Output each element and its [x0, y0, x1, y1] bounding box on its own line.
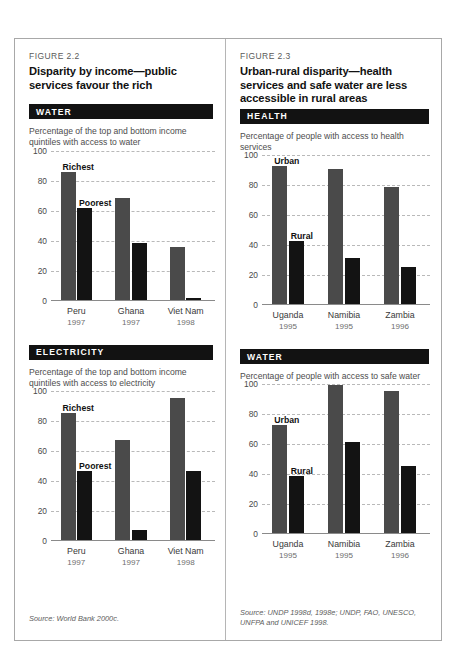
figure-source: Source: World Bank 2000c.	[29, 614, 119, 624]
series-label-poorest: Poorest	[79, 461, 111, 471]
figure-page: FIGURE 2.2 Disparity by income—public se…	[0, 0, 456, 655]
plot-area: 020406080100UrbanRural	[262, 384, 430, 534]
series-label-urban: Urban	[274, 415, 299, 425]
bar-uganda-rural	[289, 241, 304, 304]
bar-zambia-urban	[384, 187, 399, 304]
series-label-rural: Rural	[291, 466, 313, 476]
figures-frame: FIGURE 2.2 Disparity by income—public se…	[14, 38, 442, 641]
x-axis-category: Ghana1997	[118, 546, 144, 567]
series-label-richest: Richest	[63, 162, 94, 172]
y-axis-tick-label: 60	[249, 439, 258, 449]
series-label-urban: Urban	[274, 156, 299, 166]
series-label-richest: Richest	[63, 403, 94, 413]
category-year: 1995	[273, 322, 304, 331]
bar-viet-nam-poorest	[186, 471, 201, 540]
chart-income-electricity: 020406080100RichestPoorestPeru1997Ghana1…	[29, 391, 213, 572]
bar-peru-richest	[61, 413, 76, 541]
category-name: Ghana	[118, 546, 144, 556]
bar-ghana-richest	[115, 440, 130, 541]
figure-title: Disparity by income—public services favo…	[29, 65, 213, 92]
category-name: Namibia	[328, 310, 360, 320]
category-name: Zambia	[385, 539, 414, 549]
x-axis-category: Uganda1995	[273, 310, 304, 331]
category-year: 1997	[67, 558, 86, 567]
y-axis-tick-label: 100	[33, 386, 47, 396]
bar-peru-richest	[61, 172, 76, 300]
bar-peru-poorest	[77, 471, 92, 540]
gridline	[51, 451, 215, 452]
x-axis-category: Viet Nam1998	[168, 546, 204, 567]
bar-viet-nam-richest	[170, 247, 185, 300]
y-axis-tick-label: 0	[253, 529, 258, 539]
bar-peru-poorest	[77, 208, 92, 300]
category-name: Ghana	[118, 306, 144, 316]
y-axis-tick-label: 0	[253, 300, 258, 310]
y-axis-tick-label: 20	[249, 499, 258, 509]
y-axis-tick-label: 100	[244, 379, 258, 389]
category-name: Uganda	[273, 539, 304, 549]
category-name: Zambia	[385, 310, 414, 320]
y-axis-tick-label: 0	[42, 296, 47, 306]
category-year: 1995	[328, 322, 360, 331]
section-caption: Percentage of people with access to heal…	[240, 131, 429, 153]
x-axis: Peru1997Ghana1997Viet Nam1998	[51, 306, 215, 332]
x-axis: Peru1997Ghana1997Viet Nam1998	[51, 546, 215, 572]
figure-number: FIGURE 2.2	[29, 51, 213, 61]
y-axis-tick-label: 20	[38, 266, 47, 276]
bar-uganda-urban	[272, 425, 287, 533]
category-name: Peru	[67, 306, 86, 316]
bar-uganda-rural	[289, 476, 304, 533]
gridline	[51, 421, 215, 422]
bar-ghana-poorest	[132, 530, 147, 541]
chart-urbanrural-health: 020406080100UrbanRuralUganda1995Namibia1…	[240, 155, 429, 336]
bar-ghana-poorest	[132, 243, 147, 300]
gridline	[51, 211, 215, 212]
x-axis-category: Zambia1996	[385, 539, 414, 560]
x-axis-category: Peru1997	[67, 546, 86, 567]
category-year: 1997	[118, 318, 144, 327]
y-axis-tick-label: 40	[38, 236, 47, 246]
y-axis-tick-label: 80	[249, 180, 258, 190]
y-axis-tick-label: 0	[42, 536, 47, 546]
bar-viet-nam-poorest	[186, 298, 201, 300]
x-axis: Uganda1995Namibia1995Zambia1996	[262, 310, 430, 336]
gridline	[51, 241, 215, 242]
plot-area: 020406080100UrbanRural	[262, 155, 430, 305]
x-axis-category: Viet Nam1998	[168, 306, 204, 327]
chart-urbanrural-water: 020406080100UrbanRuralUganda1995Namibia1…	[240, 384, 429, 565]
x-axis-category: Ghana1997	[118, 306, 144, 327]
series-label-rural: Rural	[291, 231, 313, 241]
x-axis-category: Uganda1995	[273, 539, 304, 560]
section-caption: Percentage of people with access to safe…	[240, 371, 429, 382]
category-year: 1995	[273, 551, 304, 560]
category-year: 1997	[67, 318, 86, 327]
plot-area: 020406080100RichestPoorest	[51, 391, 215, 541]
section-band-electricity: ELECTRICITY	[29, 345, 213, 360]
figure-source: Source: UNDP 1998d, 1998e; UNDP, FAO, UN…	[240, 608, 436, 628]
y-axis-tick-label: 20	[249, 270, 258, 280]
y-axis-tick-label: 60	[38, 446, 47, 456]
y-axis-tick-label: 40	[249, 240, 258, 250]
section-band-water: WATER	[29, 104, 213, 119]
figure-panel-2-2: FIGURE 2.2 Disparity by income—public se…	[15, 39, 225, 640]
bar-zambia-urban	[384, 391, 399, 534]
category-name: Uganda	[273, 310, 304, 320]
category-year: 1998	[168, 558, 204, 567]
bar-viet-nam-richest	[170, 398, 185, 541]
bar-uganda-urban	[272, 166, 287, 304]
series-label-poorest: Poorest	[79, 198, 111, 208]
section-caption: Percentage of the top and bottom income …	[29, 126, 213, 148]
bar-namibia-urban	[328, 385, 343, 534]
bar-namibia-rural	[345, 442, 360, 534]
bar-ghana-richest	[115, 198, 130, 300]
x-axis: Uganda1995Namibia1995Zambia1996	[262, 539, 430, 565]
bar-namibia-rural	[345, 258, 360, 305]
category-year: 1996	[385, 322, 414, 331]
x-axis-category: Zambia1996	[385, 310, 414, 331]
category-name: Viet Nam	[168, 546, 204, 556]
plot-area: 020406080100RichestPoorest	[51, 151, 215, 301]
category-name: Namibia	[328, 539, 360, 549]
category-name: Viet Nam	[168, 306, 204, 316]
gridline	[51, 151, 215, 152]
gridline	[51, 391, 215, 392]
